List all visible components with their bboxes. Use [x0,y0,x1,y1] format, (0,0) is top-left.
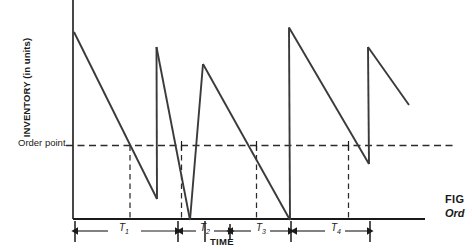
order-point-crossing-droplines [130,146,349,220]
decline-segment-1 [74,32,157,199]
axes-group [73,0,425,219]
decline-segment-3 [203,64,290,220]
period-label-t1-sub: 1 [125,228,129,235]
plot-canvas [0,0,472,250]
period-label-t2: T2 [200,222,210,235]
inventory-sawtooth-curve [74,28,409,221]
figure-caption-title: Ord [445,207,465,219]
decline-segment-5 [368,47,409,105]
x-axis-title: TIME [210,236,234,247]
period-label-t3-sub: 3 [262,228,266,235]
figure-caption-label: FIG [445,193,465,205]
period-label-t4: T4 [331,222,341,235]
period-label-t2-sub: 2 [206,228,210,235]
order-point-label: Order point [18,137,66,148]
period-label-t3: T3 [256,222,266,235]
inventory-order-point-figure: INVENTORY (in units) Order point TIME T1… [0,0,472,250]
period-label-t4-sub: 4 [337,228,341,235]
riser-segment-1 [157,47,158,199]
decline-segment-2 [157,47,191,220]
riser-segment-4 [368,47,369,164]
riser-segment-2 [190,64,203,220]
riser-segment-3 [289,28,290,221]
period-label-t1: T1 [119,222,129,235]
decline-segment-4 [289,28,369,165]
